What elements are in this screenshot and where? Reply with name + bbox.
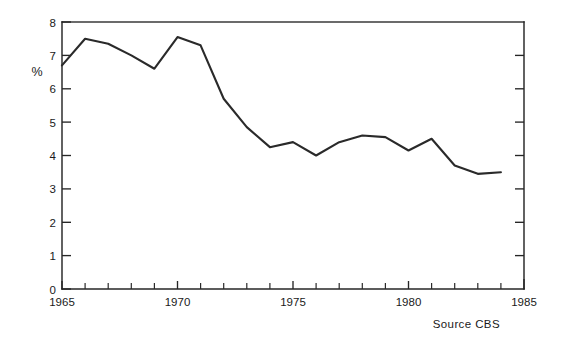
x-tick-label: 1965 — [49, 296, 75, 308]
y-tick-label: 2 — [50, 217, 56, 229]
line-chart-svg: 8 7 6 5 4 3 2 1 0 % 1965 1970 1975 1980 … — [0, 0, 562, 347]
x-axis-ticks — [62, 279, 524, 289]
chart-figure: 8 7 6 5 4 3 2 1 0 % 1965 1970 1975 1980 … — [0, 0, 562, 347]
y-axis-ticks-right — [515, 55, 524, 255]
chart-frame — [62, 22, 524, 289]
y-tick-labels: 8 7 6 5 4 3 2 1 0 — [50, 17, 57, 296]
data-series-line — [62, 37, 501, 174]
x-tick-label: 1985 — [511, 296, 537, 308]
y-tick-label: 6 — [50, 83, 56, 95]
source-note: Source CBS — [433, 318, 500, 330]
y-tick-label: 3 — [50, 183, 56, 195]
x-tick-label: 1980 — [396, 296, 422, 308]
y-tick-label: 5 — [50, 117, 56, 129]
y-tick-label: 4 — [50, 150, 57, 162]
y-axis-ticks-left — [62, 22, 71, 289]
y-tick-label: 0 — [50, 284, 56, 296]
y-tick-label: 8 — [50, 17, 56, 29]
x-tick-label: 1970 — [165, 296, 191, 308]
x-tick-label: 1975 — [280, 296, 306, 308]
y-axis-label: % — [31, 65, 42, 79]
y-tick-label: 7 — [50, 50, 56, 62]
x-tick-labels: 1965 1970 1975 1980 1985 — [49, 296, 537, 308]
y-tick-label: 1 — [50, 250, 56, 262]
